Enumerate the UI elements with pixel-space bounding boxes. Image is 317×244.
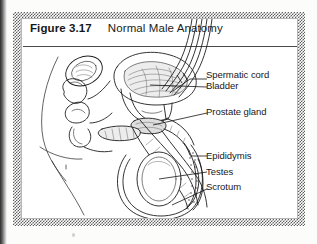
upper-left-organ — [61, 50, 107, 91]
page-smudge-artifact — [72, 233, 75, 237]
page-gutter-shadow — [0, 0, 7, 244]
label-epididymis: Epididymis — [206, 151, 251, 161]
label-bladder: Bladder — [206, 81, 238, 91]
label-scrotum: Scrotum — [206, 182, 241, 192]
label-spermatic-cord: Spermatic cord — [206, 70, 269, 80]
rectum-structure — [164, 119, 194, 155]
leader-prostate-gland — [153, 113, 207, 125]
bladder-organ — [114, 52, 196, 105]
label-prostate-gland: Prostate gland — [206, 107, 267, 117]
intestinal-loops — [63, 79, 112, 152]
male-anatomy-illustration — [22, 19, 297, 218]
label-testes: Testes — [206, 167, 233, 177]
pubic-bone — [98, 126, 140, 141]
figure-page: Figure 3.17 Normal Male Anatomy — [0, 0, 317, 244]
